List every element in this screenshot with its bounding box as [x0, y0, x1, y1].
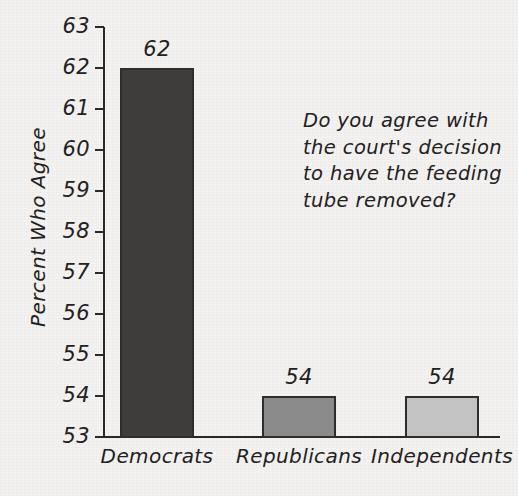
bar-chart: Percent Who Agree 6362616059585756555453… — [0, 0, 518, 496]
y-tick-label-61: 61 — [46, 98, 90, 119]
y-tick-label-58: 58 — [46, 221, 90, 242]
plot-area: Percent Who Agree 6362616059585756555453… — [0, 0, 518, 496]
bar-republicans[interactable] — [262, 396, 336, 438]
y-tick-label-60: 60 — [46, 139, 90, 160]
bar-value-label-independents: 54 — [385, 367, 499, 388]
x-tick-label-republicans: Republicans — [217, 445, 381, 467]
y-tick-63 — [95, 26, 104, 28]
y-tick-53 — [95, 436, 104, 438]
y-tick-56 — [95, 313, 104, 315]
y-tick-label-54: 54 — [46, 385, 90, 406]
y-tick-59 — [95, 190, 104, 192]
y-tick-label-62: 62 — [46, 57, 90, 78]
question-annotation-line-3: to have the feeding — [303, 161, 508, 188]
bar-value-label-democrats: 62 — [100, 39, 214, 60]
y-tick-62 — [95, 67, 104, 69]
y-tick-label-53: 53 — [46, 426, 90, 447]
y-tick-label-59: 59 — [46, 180, 90, 201]
y-tick-57 — [95, 272, 104, 274]
y-tick-label-56: 56 — [46, 303, 90, 324]
x-tick-label-democrats: Democrats — [75, 445, 239, 467]
y-tick-61 — [95, 108, 104, 110]
question-annotation-line-1: Do you agree with — [303, 108, 508, 135]
x-tick-label-independents: Independents — [360, 445, 518, 467]
y-tick-54 — [95, 395, 104, 397]
y-tick-58 — [95, 231, 104, 233]
y-tick-55 — [95, 354, 104, 356]
y-tick-label-57: 57 — [46, 262, 90, 283]
question-annotation-line-2: the court's decision — [303, 135, 508, 162]
question-annotation-line-4: tube removed? — [303, 188, 508, 215]
y-tick-label-63: 63 — [46, 16, 90, 37]
bar-value-label-republicans: 54 — [242, 367, 356, 388]
bar-independents[interactable] — [405, 396, 479, 438]
bar-democrats[interactable] — [120, 68, 194, 438]
y-tick-label-55: 55 — [46, 344, 90, 365]
question-annotation: Do you agree withthe court's decisionto … — [303, 108, 508, 214]
y-tick-60 — [95, 149, 104, 151]
